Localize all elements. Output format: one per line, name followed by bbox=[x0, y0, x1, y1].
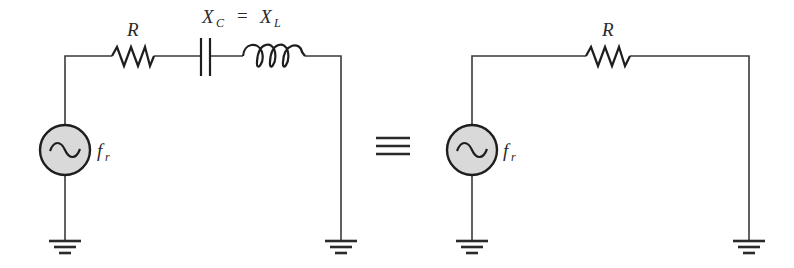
svg-text:X: X bbox=[259, 6, 273, 27]
right-source-label: f r bbox=[503, 140, 516, 164]
circuit-diagram: R X C = X L f r bbox=[0, 0, 794, 268]
resistor-icon bbox=[586, 47, 630, 66]
svg-text:f: f bbox=[503, 140, 511, 161]
svg-text:r: r bbox=[105, 150, 110, 164]
ground-icon bbox=[49, 241, 81, 253]
ground-icon bbox=[456, 241, 488, 253]
svg-text:L: L bbox=[273, 16, 281, 30]
right-wire-top-right bbox=[630, 56, 749, 241]
svg-text:X: X bbox=[201, 6, 215, 27]
ground-icon bbox=[733, 241, 765, 253]
left-circuit: R X C = X L f r bbox=[40, 5, 357, 253]
ac-source-icon bbox=[40, 125, 90, 175]
left-source-label: f r bbox=[97, 140, 110, 164]
left-resistor-label: R bbox=[126, 19, 139, 40]
right-circuit: R f r bbox=[447, 19, 765, 253]
capacitor-icon bbox=[201, 38, 210, 76]
inductor-icon bbox=[243, 45, 305, 67]
ground-icon bbox=[325, 241, 357, 253]
svg-text:r: r bbox=[511, 150, 516, 164]
equivalence-icon bbox=[376, 138, 410, 154]
svg-text:f: f bbox=[97, 140, 105, 161]
resistor-icon bbox=[112, 47, 154, 66]
ac-source-icon bbox=[447, 125, 497, 175]
svg-text:=: = bbox=[237, 5, 248, 26]
right-resistor-label: R bbox=[601, 19, 614, 40]
resonance-condition-label: X C = X L bbox=[201, 5, 281, 30]
right-wire-top-left bbox=[472, 56, 586, 125]
left-wire-top-right bbox=[305, 56, 341, 241]
left-wire-top-left bbox=[65, 56, 112, 125]
svg-text:C: C bbox=[216, 16, 225, 30]
